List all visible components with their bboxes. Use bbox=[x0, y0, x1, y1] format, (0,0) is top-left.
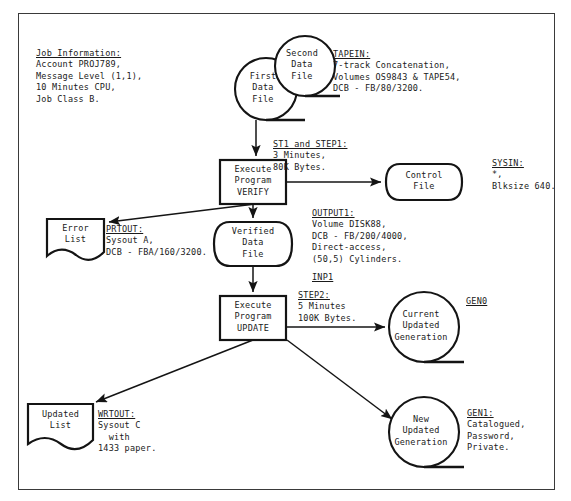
annotation-line: 1433 paper. bbox=[98, 443, 157, 454]
annotation-line: DCB - FB/80/3200. bbox=[333, 83, 461, 94]
annotation-line: 3 Minutes, bbox=[273, 150, 347, 161]
annotation-line: Sysout C bbox=[98, 420, 157, 431]
annotation-line: 7-track Concatenation, bbox=[333, 60, 461, 71]
annotation-sysin: SYSIN:*,Blksize 640. bbox=[492, 158, 556, 192]
annotation-heading: OUTPUT1: bbox=[312, 208, 355, 219]
annotation-line: DCB - FBA/160/3200. bbox=[106, 247, 207, 258]
node-label-verified-file: Verified Data File bbox=[205, 226, 301, 260]
annotation-st1-step1: ST1 and STEP1:3 Minutes,80K Bytes. bbox=[273, 139, 347, 173]
annotation-gen1: GEN1:Catalogued,Password,Private. bbox=[467, 408, 526, 454]
node-label-control-file: Control File bbox=[376, 170, 472, 193]
annotation-heading: WRTOUT: bbox=[98, 409, 135, 420]
node-label-current-gen: Current Updated Generation bbox=[373, 309, 469, 343]
annotation-line: Volumes OS9843 & TAPE54, bbox=[333, 72, 461, 83]
annotation-heading: ST1 and STEP1: bbox=[273, 139, 347, 150]
annotation-line: Password, bbox=[467, 431, 526, 442]
annotation-heading: PRTOUT: bbox=[106, 224, 143, 235]
annotation-inp1: INP1 bbox=[312, 272, 333, 283]
annotation-step2: STEP2:5 Minutes100K Bytes. bbox=[298, 290, 357, 324]
annotation-wrtout: WRTOUT:Sysout C with1433 paper. bbox=[98, 409, 157, 455]
annotation-line: Account PROJ789, bbox=[36, 59, 142, 70]
annotation-output1: OUTPUT1:Volume DISK88,DCB - FB/200/4000,… bbox=[312, 208, 408, 265]
annotation-line: with bbox=[98, 432, 157, 443]
annotation-prtout: PRTOUT:Sysout A,DCB - FBA/160/3200. bbox=[106, 224, 207, 258]
node-label-updated-list: Updated List bbox=[13, 409, 109, 432]
annotation-line: 5 Minutes bbox=[298, 301, 357, 312]
annotation-line: Sysout A, bbox=[106, 235, 207, 246]
annotation-line: Message Level (1,1), bbox=[36, 71, 142, 82]
annotation-line: Private. bbox=[467, 442, 526, 453]
annotation-line: 80K Bytes. bbox=[273, 162, 347, 173]
annotation-heading: GEN0 bbox=[466, 296, 487, 307]
annotation-heading: TAPEIN: bbox=[333, 49, 370, 60]
annotation-line: Blksize 640. bbox=[492, 181, 556, 192]
annotation-line: DCB - FB/200/4000, bbox=[312, 231, 408, 242]
annotation-line: (50,5) Cylinders. bbox=[312, 254, 408, 265]
annotation-line: Direct-access, bbox=[312, 242, 408, 253]
annotation-job-information: Job Information:Account PROJ789,Message … bbox=[36, 48, 142, 105]
node-label-new-gen: New Updated Generation bbox=[373, 414, 469, 448]
node-label-execute-update: Execute Program UPDATE bbox=[205, 300, 301, 334]
annotation-gen0: GEN0 bbox=[466, 296, 487, 307]
annotation-heading: INP1 bbox=[312, 272, 333, 283]
diagram-canvas: First Data File Second Data File Execute… bbox=[0, 0, 571, 501]
annotation-line: Volume DISK88, bbox=[312, 219, 408, 230]
annotation-line: Catalogued, bbox=[467, 419, 526, 430]
annotation-line: 100K Bytes. bbox=[298, 313, 357, 324]
annotation-line: Job Class B. bbox=[36, 94, 142, 105]
annotation-heading: STEP2: bbox=[298, 290, 330, 301]
annotation-line: 10 Minutes CPU, bbox=[36, 82, 142, 93]
annotation-tapein: TAPEIN:7-track Concatenation,Volumes OS9… bbox=[333, 49, 461, 95]
annotation-heading: SYSIN: bbox=[492, 158, 524, 169]
annotation-heading: Job Information: bbox=[36, 48, 121, 59]
annotation-line: *, bbox=[492, 169, 556, 180]
annotation-heading: GEN1: bbox=[467, 408, 494, 419]
